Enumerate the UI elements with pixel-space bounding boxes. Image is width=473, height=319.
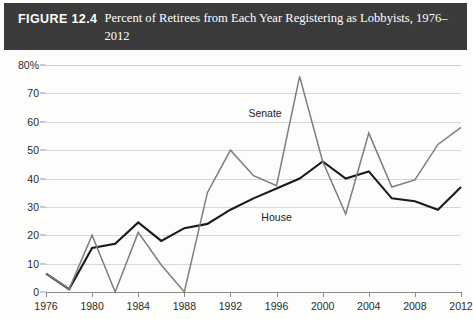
x-tick-label: 2004	[357, 300, 380, 312]
x-tick-mark	[138, 292, 139, 297]
figure-header-bar: FIGURE 12.4 Percent of Retirees from Eac…	[4, 3, 467, 50]
figure-number-label: FIGURE 12.4	[18, 9, 97, 28]
plot-wrapper: 01020304050607080% 197619801984198819921…	[0, 55, 471, 319]
y-tick-label: 10	[27, 258, 39, 270]
x-tick-label: 1984	[127, 300, 150, 312]
y-tick-label: 40	[27, 173, 39, 185]
y-tick-label: 20	[27, 229, 39, 241]
series-label-senate: Senate	[248, 107, 281, 119]
x-tick-mark	[323, 292, 324, 297]
y-tick-label: 80%	[18, 59, 39, 71]
y-tick-label: 70	[27, 87, 39, 99]
x-tick-mark	[369, 292, 370, 297]
figure-header-inner: FIGURE 12.4 Percent of Retirees from Eac…	[18, 9, 457, 45]
x-tick-label: 1980	[80, 300, 103, 312]
x-tick-label: 2012	[449, 300, 472, 312]
series-svg	[46, 65, 461, 292]
x-tick-mark	[92, 292, 93, 297]
series-line-house	[46, 161, 461, 289]
y-tick-label: 30	[27, 201, 39, 213]
x-tick-mark	[46, 292, 47, 297]
x-tick-mark	[277, 292, 278, 297]
series-label-house: House	[261, 211, 291, 223]
x-tick-label: 1992	[219, 300, 242, 312]
x-tick-label: 1996	[265, 300, 288, 312]
y-tick-label: 60	[27, 116, 39, 128]
x-tick-mark	[461, 292, 462, 297]
x-tick-mark	[230, 292, 231, 297]
x-tick-label: 1976	[34, 300, 57, 312]
x-tick-mark	[415, 292, 416, 297]
y-tick-label: 50	[27, 144, 39, 156]
figure-title: Percent of Retirees from Each Year Regis…	[104, 9, 456, 45]
y-tick-label: 0	[33, 286, 39, 298]
x-tick-label: 2008	[403, 300, 426, 312]
x-tick-label: 1988	[173, 300, 196, 312]
gridline	[46, 292, 461, 293]
plot-area: 01020304050607080% 197619801984198819921…	[46, 65, 461, 292]
x-tick-label: 2000	[311, 300, 334, 312]
